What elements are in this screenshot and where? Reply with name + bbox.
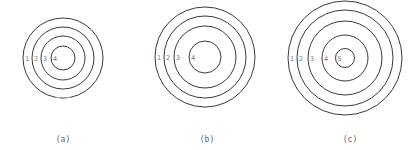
ring-label-2: 2 [166,54,170,62]
ring-label-1: 1 [157,54,161,62]
ring-label-2: 2 [299,55,303,63]
figure-c: 12345(c) [288,1,402,144]
ring-3 [308,21,382,95]
ring-label-3: 3 [310,55,314,63]
figure-b: 1234(b) [155,7,255,144]
figure-caption: (a) [56,135,70,144]
figure-a: 1234(a) [23,18,103,144]
figure-caption: (b) [200,135,214,144]
ring-1 [288,1,402,115]
ring-3 [174,26,236,88]
concentric-circles-diagram: 1234(a)1234(b)12345(c) [0,0,416,150]
ring-label-1: 1 [25,55,29,63]
accent-mark [56,97,70,98]
ring-label-4: 4 [53,55,57,63]
ring-label-3: 3 [176,54,180,62]
ring-3 [41,36,85,80]
ring-4 [322,35,368,81]
figure-caption: (c) [343,135,357,144]
ring-label-5: 5 [338,55,342,63]
ring-label-3: 3 [43,55,47,63]
ring-label-4: 4 [191,54,195,62]
ring-label-4: 4 [324,55,328,63]
ring-label-2: 2 [34,55,38,63]
ring-label-1: 1 [290,55,294,63]
